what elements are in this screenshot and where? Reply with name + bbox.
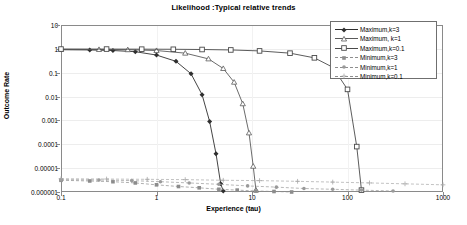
legend-item[interactable]: Minimum,k=3 <box>335 53 436 62</box>
series-marker <box>331 187 335 191</box>
series-marker <box>221 178 226 183</box>
series-marker <box>345 87 350 92</box>
data-series <box>58 47 258 192</box>
data-series <box>59 47 226 193</box>
series-marker <box>312 56 317 61</box>
legend-label: Maximum,k=3 <box>358 26 399 33</box>
legend-item[interactable]: Maximum, k=1 <box>335 34 436 43</box>
series-marker <box>272 190 276 194</box>
series-marker <box>154 53 159 58</box>
legend-swatch <box>335 25 358 34</box>
series-marker <box>134 181 138 185</box>
series-marker <box>235 188 239 192</box>
legend-marker-icon <box>338 25 350 34</box>
series-marker <box>200 92 205 97</box>
legend-label: Maximum, k=1 <box>358 35 401 42</box>
series-marker <box>403 181 408 186</box>
series-marker <box>367 181 372 186</box>
series-marker <box>302 187 306 191</box>
legend-item[interactable]: Maximum,k=3 <box>335 25 436 34</box>
legend-swatch <box>335 34 358 43</box>
series-marker <box>257 49 262 54</box>
series-marker <box>288 51 293 56</box>
series-marker <box>240 101 245 106</box>
legend-marker-icon <box>338 53 350 62</box>
series-marker <box>246 184 250 188</box>
legend-item[interactable]: Minimum,k=1 <box>335 63 436 72</box>
series-marker <box>254 189 258 193</box>
series-marker <box>217 183 221 187</box>
legend-label: Minimum,k=3 <box>358 54 398 61</box>
series-marker <box>251 164 256 169</box>
series-marker <box>360 188 364 192</box>
series-line <box>61 50 223 191</box>
series-marker <box>441 182 446 187</box>
chart-container: Likelihood :Typical relative trends 1010… <box>0 0 467 225</box>
series-marker <box>159 180 163 184</box>
series-marker <box>217 187 221 191</box>
series-marker <box>246 130 251 135</box>
legend-label: Minimum,k=1 <box>358 64 398 71</box>
legend-marker-icon <box>338 72 350 81</box>
series-marker <box>197 186 201 190</box>
legend-swatch <box>335 44 358 53</box>
series-marker <box>391 189 395 193</box>
series-marker <box>59 47 64 52</box>
series-marker <box>104 47 109 52</box>
legend-swatch <box>335 53 358 62</box>
series-marker <box>221 66 226 71</box>
legend-swatch <box>335 72 358 81</box>
legend-label: Maximum,k=0.1 <box>358 45 405 52</box>
series-marker <box>187 181 191 185</box>
series-marker <box>275 185 279 189</box>
series-marker <box>214 151 219 156</box>
series-marker <box>354 144 359 149</box>
series-marker <box>104 177 109 182</box>
series-marker <box>139 47 144 52</box>
legend-swatch <box>335 63 358 72</box>
series-marker <box>200 47 205 52</box>
data-series <box>59 47 364 193</box>
legend-label: Minimum,k=0.1 <box>358 73 403 80</box>
legend-marker-icon <box>338 34 350 43</box>
series-marker <box>87 47 92 52</box>
series-line <box>61 49 256 190</box>
legend-item[interactable]: Minimum,k=0.1 <box>335 72 436 81</box>
legend-marker-icon <box>338 44 350 53</box>
series-marker <box>290 190 294 194</box>
legend-item[interactable]: Maximum,k=0.1 <box>335 44 436 53</box>
series-marker <box>177 185 181 189</box>
series-marker <box>229 48 234 53</box>
legend-marker-icon <box>338 63 350 72</box>
series-line <box>61 49 361 190</box>
series-marker <box>183 177 188 182</box>
series-marker <box>257 178 262 183</box>
series-marker <box>155 183 159 187</box>
series-marker <box>171 47 176 52</box>
series-marker <box>295 179 300 184</box>
legend: Maximum,k=3Maximum, k=1Maximum,k=0.1Mini… <box>330 21 437 79</box>
series-marker <box>330 180 335 185</box>
series-marker <box>207 119 212 124</box>
